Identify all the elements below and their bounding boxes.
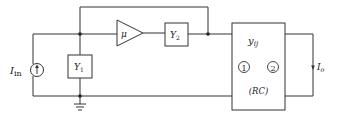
output-current-label: Io	[316, 62, 325, 74]
port-2-marker: 2	[268, 62, 279, 73]
output-loop	[285, 34, 313, 96]
circuit-diagram: Iin Y1 μ Y2 yij 1 2 (RC) Io	[0, 0, 340, 121]
current-source	[31, 64, 44, 77]
junction-dot	[78, 94, 82, 98]
network-type-label: (RC)	[249, 86, 269, 96]
junction-dot	[78, 32, 82, 36]
svg-text:1: 1	[241, 64, 246, 73]
source-label: Iin	[9, 65, 22, 78]
port-1-marker: 1	[239, 62, 250, 73]
amplifier-gain-label: μ	[121, 29, 127, 39]
feedback-wire	[80, 7, 208, 34]
svg-text:2: 2	[270, 64, 275, 73]
arrow-down-icon	[311, 66, 315, 71]
junction-dot	[206, 32, 210, 36]
ground-icon	[74, 104, 86, 110]
